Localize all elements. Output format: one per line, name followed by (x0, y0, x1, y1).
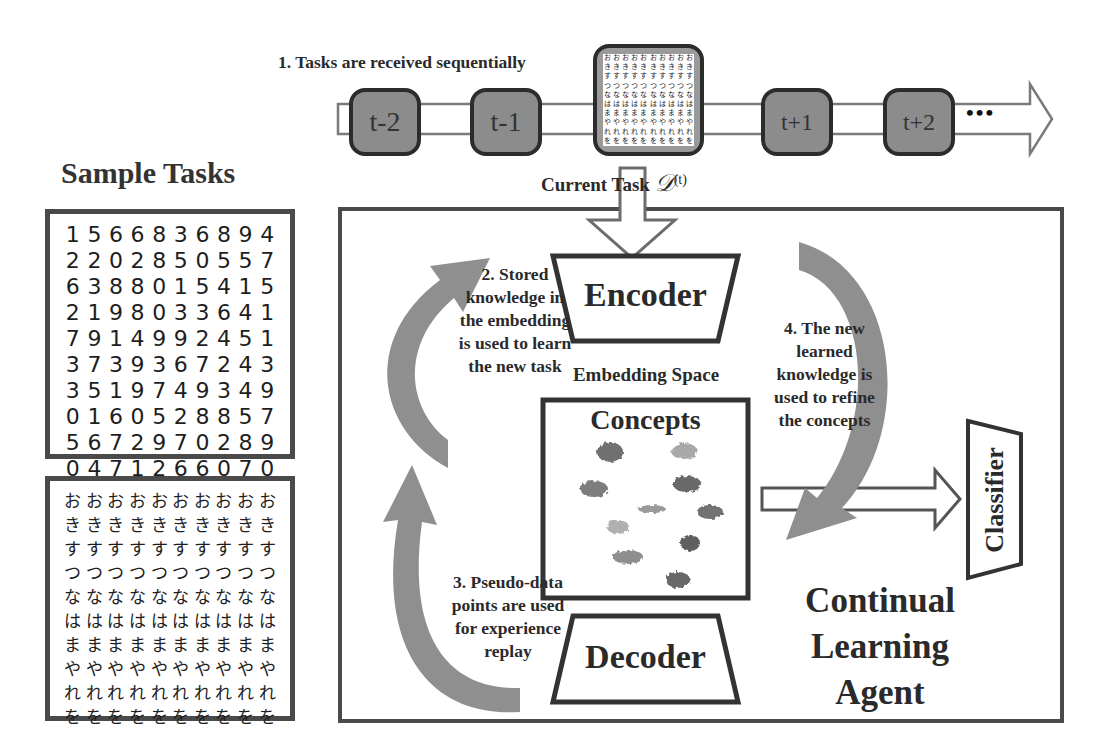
mnist-digit: 1 (105, 326, 127, 352)
concept-blob (580, 481, 608, 497)
kmnist-character: や (170, 657, 192, 681)
thumbnail-character: お (667, 54, 676, 63)
mnist-digit: 0 (192, 430, 214, 456)
kmnist-character: や (148, 657, 170, 681)
kmnist-character: き (192, 513, 214, 537)
kmnist-character: お (192, 489, 214, 513)
mnist-digit: 0 (192, 248, 214, 274)
thumbnail-character: き (649, 63, 658, 72)
step4-line: knowledge is (757, 363, 892, 386)
concept-blob (680, 535, 700, 551)
thumbnail-character: や (639, 118, 648, 127)
mnist-digit: 9 (148, 326, 170, 352)
thumbnail-character: ま (639, 109, 648, 118)
mnist-digit: 1 (170, 274, 192, 300)
kmnist-character: な (170, 585, 192, 609)
kmnist-character: お (235, 489, 257, 513)
thumbnail-character: き (658, 63, 667, 72)
thumbnail-character: を (639, 137, 648, 146)
thumbnail-character: つ (685, 82, 694, 91)
thumbnail-character: は (658, 100, 667, 109)
kmnist-character: や (256, 657, 278, 681)
mnist-digit: 7 (105, 430, 127, 456)
kmnist-character: お (170, 489, 192, 513)
kmnist-character: や (105, 657, 127, 681)
kmnist-character: つ (148, 561, 170, 585)
kmnist-character: は (105, 609, 127, 633)
mnist-digit: 8 (105, 274, 127, 300)
mnist-digit: 2 (127, 248, 149, 274)
thumbnail-character: つ (667, 82, 676, 91)
thumbnail-character: お (658, 54, 667, 63)
thumbnail-character: を (685, 137, 694, 146)
kmnist-character: を (105, 705, 127, 729)
kmnist-character: れ (127, 681, 149, 705)
current-task-text: Current Task (541, 174, 650, 195)
thumbnail-character: き (603, 63, 612, 72)
kmnist-character: き (62, 513, 84, 537)
kmnist-character: は (148, 609, 170, 633)
kmnist-character: れ (213, 681, 235, 705)
thumbnail-character: な (603, 91, 612, 100)
mnist-digit: 5 (256, 274, 278, 300)
mnist-digit: 7 (148, 378, 170, 404)
kmnist-character: れ (192, 681, 214, 705)
kmnist-character: な (62, 585, 84, 609)
task-box-t-plus-1[interactable]: t+1 (761, 88, 833, 156)
thumbnail-character: お (630, 54, 639, 63)
thumbnail-character: つ (658, 82, 667, 91)
kmnist-character: お (256, 489, 278, 513)
thumbnail-character: お (685, 54, 694, 63)
step2-line: knowledge in (450, 286, 580, 309)
mnist-digit: 8 (148, 248, 170, 274)
kmnist-character: ま (192, 633, 214, 657)
thumbnail-character: な (667, 91, 676, 100)
mnist-digit: 7 (192, 352, 214, 378)
thumbnail-character: お (621, 54, 630, 63)
task-box-t-minus-2[interactable]: t-2 (349, 88, 421, 156)
mnist-digit: 8 (127, 300, 149, 326)
task-box-current[interactable]: おおおおおおおおおおききききききききききすすすすすすすすすすつつつつつつつつつつ… (593, 44, 704, 156)
thumbnail-character: き (685, 63, 694, 72)
thumbnail-character: す (621, 72, 630, 81)
thumbnail-character: を (630, 137, 639, 146)
kmnist-character: な (127, 585, 149, 609)
mnist-digit: 0 (148, 274, 170, 300)
timeline-ellipsis: ••• (966, 100, 995, 126)
kmnist-character: お (213, 489, 235, 513)
thumbnail-character: ま (621, 109, 630, 118)
task-box-t-plus-2[interactable]: t+2 (883, 88, 955, 156)
task-box-t-minus-1[interactable]: t-1 (470, 88, 542, 156)
concept-blob (666, 572, 690, 588)
thumbnail-character: や (630, 118, 639, 127)
thumbnail-character: れ (603, 128, 612, 137)
kmnist-character: な (148, 585, 170, 609)
thumbnail-character: お (639, 54, 648, 63)
mnist-digit: 5 (213, 248, 235, 274)
kmnist-character: つ (170, 561, 192, 585)
mnist-digit: 3 (148, 352, 170, 378)
thumbnail-character: や (685, 118, 694, 127)
timeline-step-label: 1. Tasks are received sequentially (278, 52, 526, 73)
kmnist-character: な (235, 585, 257, 609)
thumbnail-character: は (667, 100, 676, 109)
thumbnail-character: す (639, 72, 648, 81)
mnist-digit: 9 (127, 352, 149, 378)
thumbnail-character: ま (612, 109, 621, 118)
mnist-digit: 6 (213, 300, 235, 326)
mnist-digit: 5 (235, 326, 257, 352)
thumbnail-character: お (676, 54, 685, 63)
kmnist-character: す (62, 537, 84, 561)
mnist-digit: 4 (127, 326, 149, 352)
step3-text: 3. Pseudo-data points are used for exper… (438, 571, 578, 663)
decoder-label: Decoder (553, 638, 738, 676)
mnist-digit: 9 (127, 378, 149, 404)
step2-line: is used to learn (450, 332, 580, 355)
thumbnail-character: を (612, 137, 621, 146)
mnist-digit: 6 (105, 222, 127, 248)
mnist-digit: 5 (84, 378, 106, 404)
thumbnail-character: ま (649, 109, 658, 118)
step4-line: the concepts (757, 409, 892, 432)
thumbnail-character: は (685, 100, 694, 109)
mnist-digit: 3 (105, 352, 127, 378)
